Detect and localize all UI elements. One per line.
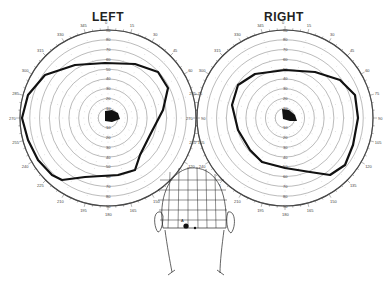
ring-label: 80 [283, 194, 288, 199]
meridian-label: 195 [257, 208, 264, 213]
meridian-label: 345 [257, 23, 264, 28]
ring-label: 80 [106, 37, 111, 42]
meridian-label: 240 [22, 164, 29, 169]
meridian-label: 255 [189, 140, 196, 145]
meridian-label: 90 [201, 116, 206, 121]
ring-label: 20 [283, 96, 288, 101]
meridian-label: 345 [80, 23, 87, 28]
ring-label: 10 [106, 106, 111, 111]
ring-label: 90 [106, 28, 111, 33]
ring-label: 30 [283, 145, 288, 150]
ring-label: 30 [283, 86, 288, 91]
meridian-label: 330 [57, 32, 64, 37]
ring-label: 40 [283, 155, 288, 160]
ring-label: 10 [106, 125, 111, 130]
neck [220, 230, 224, 273]
meridian-label: 60 [188, 68, 193, 73]
meridian-label: 255 [12, 140, 19, 145]
meridian-label: 15 [307, 23, 312, 28]
ring-label: 20 [283, 135, 288, 140]
meridian-label: 165 [130, 208, 137, 213]
meridian-label: 75 [375, 91, 380, 96]
ring-label: 40 [283, 76, 288, 81]
ring-label: 30 [106, 145, 111, 150]
neck [165, 230, 172, 272]
ring-label: 80 [106, 194, 111, 199]
meridian-label: 0 [105, 20, 108, 25]
meridian-label: 45 [173, 48, 178, 53]
meridian-label: 210 [234, 199, 241, 204]
meridian-label: 180 [105, 212, 112, 217]
ring-label: 70 [283, 184, 288, 189]
meridian-label: 90 [378, 116, 383, 121]
right-ear [227, 212, 235, 233]
meridian-label: 45 [350, 48, 355, 53]
meridian-label: 270 [186, 116, 193, 121]
meridian-label: 15 [130, 23, 135, 28]
meridian-label: 135 [350, 183, 357, 188]
ring-label: 90 [283, 28, 288, 33]
meridian-label: 225 [37, 183, 44, 188]
meridian-label: 30 [330, 32, 335, 37]
meridian-label: 105 [375, 140, 382, 145]
meridian-label: 270 [9, 116, 16, 121]
meridian-label: 300 [22, 68, 29, 73]
meridian-label: 195 [80, 208, 87, 213]
ring-label: 40 [106, 155, 111, 160]
ring-label: 60 [106, 57, 111, 62]
lesion-marker-small [194, 227, 196, 229]
isopter-boundary [232, 70, 358, 175]
meridian-label: 60 [365, 68, 370, 73]
meridian-label: 285 [12, 91, 19, 96]
ring-label: 20 [106, 96, 111, 101]
visual-field-diagram: 1010202030304040505060607070808090900153… [0, 0, 383, 291]
lesion-marker [183, 223, 188, 228]
meridian-label: 120 [365, 164, 372, 169]
ring-label: 70 [283, 47, 288, 52]
meridian-label: 330 [234, 32, 241, 37]
ring-label: 90 [106, 204, 111, 209]
ring-label: 30 [106, 86, 111, 91]
head-outline [162, 168, 226, 228]
lesion-label: A [181, 218, 184, 223]
ring-label: 90 [283, 204, 288, 209]
meridian-label: 0 [282, 20, 285, 25]
ring-label: 70 [106, 184, 111, 189]
meridian-label: 300 [199, 68, 206, 73]
ring-label: 50 [106, 164, 111, 169]
ring-label: 10 [283, 125, 288, 130]
meridian-label: 150 [153, 199, 160, 204]
blind-spot [282, 109, 297, 121]
ring-label: 60 [283, 57, 288, 62]
ring-label: 40 [106, 76, 111, 81]
ring-label: 50 [106, 67, 111, 72]
meridian-label: 150 [330, 199, 337, 204]
ring-label: 80 [283, 37, 288, 42]
meridian-label: 30 [153, 32, 158, 37]
ring-label: 60 [283, 174, 288, 179]
ring-label: 70 [106, 47, 111, 52]
meridian-label: 210 [57, 199, 64, 204]
meridian-label: 315 [37, 48, 44, 53]
meridian-label: 180 [282, 212, 289, 217]
ring-label: 20 [106, 135, 111, 140]
meridian-label: 240 [199, 164, 206, 169]
meridian-label: 165 [307, 208, 314, 213]
meridian-label: 315 [214, 48, 221, 53]
meridian-label: 285 [189, 91, 196, 96]
